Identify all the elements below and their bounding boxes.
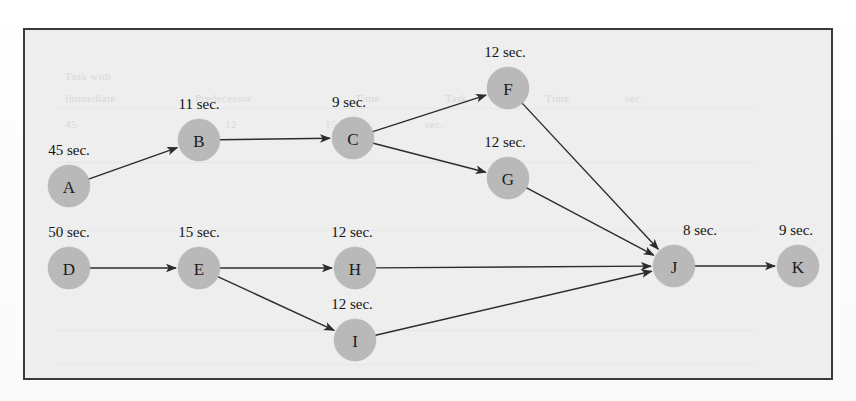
node-g[interactable]: G12 sec. — [484, 134, 529, 199]
node-label-d: D — [63, 260, 75, 279]
node-duration-c: 9 sec. — [332, 94, 366, 110]
nodes-group: A45 sec.B11 sec.C9 sec.F12 sec.G12 sec.D… — [48, 44, 819, 361]
node-label-b: B — [193, 132, 204, 151]
task-precedence-graph: A45 sec.B11 sec.C9 sec.F12 sec.G12 sec.D… — [0, 0, 856, 401]
node-e[interactable]: E15 sec. — [178, 224, 220, 289]
edge-i-to-j — [374, 271, 651, 335]
node-label-c: C — [347, 130, 358, 149]
node-label-i: I — [352, 332, 358, 351]
node-duration-i: 12 sec. — [331, 296, 373, 312]
node-duration-k: 9 sec. — [779, 222, 813, 238]
node-label-e: E — [194, 260, 204, 279]
node-k[interactable]: K9 sec. — [777, 222, 819, 287]
node-j[interactable]: J8 sec. — [653, 222, 717, 287]
node-duration-e: 15 sec. — [178, 224, 220, 240]
node-c[interactable]: C9 sec. — [332, 94, 374, 159]
node-i[interactable]: I12 sec. — [331, 296, 376, 361]
node-label-j: J — [671, 258, 678, 277]
edge-c-to-f — [372, 95, 486, 132]
node-label-g: G — [502, 170, 514, 189]
edge-c-to-g — [372, 143, 485, 172]
node-duration-a: 45 sec. — [48, 142, 90, 158]
node-duration-f: 12 sec. — [484, 44, 526, 60]
node-duration-j: 8 sec. — [683, 222, 717, 238]
edge-a-to-b — [88, 148, 177, 180]
node-duration-b: 11 sec. — [178, 96, 219, 112]
edge-h-to-j — [375, 266, 651, 268]
edge-b-to-c — [219, 138, 330, 139]
edge-e-to-i — [217, 276, 334, 330]
node-h[interactable]: H12 sec. — [331, 224, 376, 289]
scanned-figure-page: Task withImmediatePredecessorTimeTaskTim… — [0, 0, 856, 401]
node-duration-d: 50 sec. — [48, 224, 90, 240]
edge-g-to-j — [526, 187, 654, 255]
node-a[interactable]: A45 sec. — [48, 142, 90, 207]
node-d[interactable]: D50 sec. — [48, 224, 90, 289]
node-label-k: K — [792, 258, 805, 277]
node-b[interactable]: B11 sec. — [178, 96, 220, 161]
node-label-a: A — [63, 178, 76, 197]
node-duration-g: 12 sec. — [484, 134, 526, 150]
node-duration-h: 12 sec. — [331, 224, 373, 240]
node-label-f: F — [503, 80, 512, 99]
node-f[interactable]: F12 sec. — [484, 44, 529, 109]
edge-f-to-j — [522, 103, 659, 250]
node-label-h: H — [349, 260, 361, 279]
